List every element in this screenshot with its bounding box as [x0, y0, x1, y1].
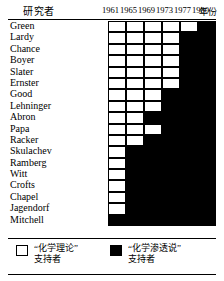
cell-chemiosmotic: [126, 180, 144, 191]
cell-chemical-theory: [162, 32, 180, 43]
cell-chemiosmotic: [126, 169, 144, 180]
cell-chemiosmotic: [198, 169, 216, 180]
cell-chemical-theory: [144, 89, 162, 100]
black-square-icon: [110, 245, 122, 256]
cell-chemiosmotic: [108, 215, 126, 226]
researcher-name: Mitchell: [10, 214, 44, 225]
row-cells: [108, 32, 216, 43]
cell-chemical-theory: [144, 21, 162, 32]
year-axis-label: 年份: [199, 5, 217, 18]
researcher-name: Lardy: [10, 31, 34, 42]
cell-chemiosmotic: [162, 169, 180, 180]
cell-chemiosmotic: [144, 215, 162, 226]
researcher-name: Racker: [10, 134, 38, 145]
cell-chemiosmotic: [198, 89, 216, 100]
cell-chemical-theory: [162, 44, 180, 55]
researcher-name: Skulachev: [10, 145, 52, 156]
chart-legend: “化学理论” 支持者 “化学渗透说” 支持者: [0, 243, 224, 273]
cell-chemiosmotic: [198, 67, 216, 78]
cell-chemiosmotic: [162, 124, 180, 135]
cell-chemiosmotic: [144, 146, 162, 157]
cell-chemiosmotic: [180, 124, 198, 135]
cell-chemiosmotic: [162, 112, 180, 123]
researcher-name: Boyer: [10, 54, 34, 65]
cell-chemiosmotic: [180, 169, 198, 180]
cell-chemiosmotic: [180, 135, 198, 146]
cell-chemiosmotic: [144, 135, 162, 146]
cell-chemiosmotic: [126, 203, 144, 214]
cell-chemiosmotic: [180, 192, 198, 203]
row-cells: [108, 215, 216, 226]
cell-chemical-theory: [108, 101, 126, 112]
cell-chemical-theory: [108, 180, 126, 191]
row-cells: [108, 89, 216, 100]
researcher-name: Jagendorf: [10, 202, 49, 213]
cell-chemiosmotic: [180, 112, 198, 123]
researcher-name: Abron: [10, 111, 36, 122]
cell-chemiosmotic: [162, 192, 180, 203]
researcher-name: Crofts: [10, 179, 35, 190]
cell-chemiosmotic: [162, 180, 180, 191]
researcher-name: Ramberg: [10, 157, 46, 168]
row-cells: [108, 146, 216, 157]
row-cells: [108, 44, 216, 55]
row-cells: [108, 158, 216, 169]
researcher-name: Good: [10, 88, 32, 99]
cell-chemical-theory: [126, 67, 144, 78]
cell-chemiosmotic: [162, 203, 180, 214]
cell-chemiosmotic: [126, 146, 144, 157]
cell-chemiosmotic: [180, 158, 198, 169]
cell-chemical-theory: [108, 55, 126, 66]
cell-chemiosmotic: [162, 215, 180, 226]
cell-chemical-theory: [126, 124, 144, 135]
year-tick-1973: 1973: [156, 5, 173, 15]
cell-chemiosmotic: [180, 55, 198, 66]
cell-chemiosmotic: [198, 158, 216, 169]
cell-chemical-theory: [126, 89, 144, 100]
cell-chemical-theory: [108, 44, 126, 55]
cell-chemical-theory: [144, 32, 162, 43]
row-cells: [108, 135, 216, 146]
cell-chemiosmotic: [198, 203, 216, 214]
cell-chemiosmotic: [180, 180, 198, 191]
cell-chemiosmotic: [198, 32, 216, 43]
cell-chemiosmotic: [180, 32, 198, 43]
white-square-icon: [16, 245, 28, 256]
cell-chemical-theory: [144, 55, 162, 66]
cell-chemiosmotic: [198, 192, 216, 203]
cell-chemiosmotic: [180, 215, 198, 226]
cell-chemiosmotic: [180, 203, 198, 214]
cell-chemical-theory: [108, 112, 126, 123]
cell-chemical-theory: [108, 67, 126, 78]
cell-chemiosmotic: [126, 192, 144, 203]
table-row: Abron: [0, 112, 224, 123]
plot-bottom-rule: [8, 238, 216, 239]
cell-chemiosmotic: [144, 158, 162, 169]
table-row: Ernster: [0, 78, 224, 89]
legend-label-chemical-theory-line1: “化学理论”: [34, 243, 78, 254]
researcher-name: Chapel: [10, 191, 38, 202]
cell-chemiosmotic: [198, 21, 216, 32]
researcher-name: Chance: [10, 43, 40, 54]
chart-page: 研究者 196119651969197319771980 年份 GreenLar…: [0, 0, 224, 281]
researcher-name: Ernster: [10, 77, 39, 88]
researcher-name: Slater: [10, 66, 33, 77]
cell-chemical-theory: [162, 21, 180, 32]
cell-chemiosmotic: [162, 158, 180, 169]
cell-chemical-theory: [108, 135, 126, 146]
cell-chemical-theory: [126, 135, 144, 146]
cell-chemical-theory: [126, 21, 144, 32]
cell-chemical-theory: [162, 78, 180, 89]
cell-chemical-theory: [108, 21, 126, 32]
row-cells: [108, 78, 216, 89]
cell-chemical-theory: [144, 44, 162, 55]
chart-plot-area: GreenLardyChanceBoyerSlaterErnsterGoodLe…: [0, 21, 224, 238]
cell-chemiosmotic: [180, 67, 198, 78]
row-cells: [108, 55, 216, 66]
researcher-column-header: 研究者: [23, 3, 55, 18]
cell-chemical-theory: [108, 169, 126, 180]
cell-chemical-theory: [180, 21, 198, 32]
cell-chemiosmotic: [180, 101, 198, 112]
cell-chemiosmotic: [144, 169, 162, 180]
researcher-name: Lehninger: [10, 100, 51, 111]
